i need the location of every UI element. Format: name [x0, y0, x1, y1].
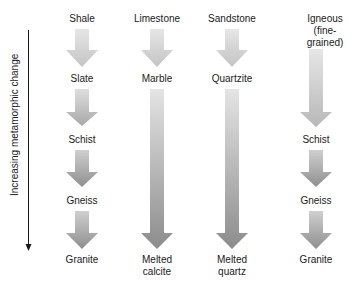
igneous-granite-label: Granite — [300, 254, 333, 265]
quartzite-label: Quartzite — [212, 73, 253, 84]
shale-label: Shale — [69, 13, 95, 24]
sandstone-arrow-1 — [216, 29, 248, 67]
shale-arrow-1 — [66, 29, 98, 67]
metamorphic-axis-arrow — [26, 30, 32, 251]
sandstone-label: Sandstone — [208, 13, 256, 24]
igneous-arrow-2 — [300, 150, 332, 187]
limestone-arrow-1 — [141, 29, 173, 67]
igneous-label-line2: (fine- — [314, 25, 337, 36]
diagram-arrows — [0, 0, 351, 281]
schist-label: Schist — [68, 134, 95, 145]
igneous-label-line3: grained) — [307, 37, 344, 48]
igneous-arrow-1 — [300, 49, 332, 127]
melted-calcite-line2: calcite — [143, 266, 171, 277]
axis-label: Increasing metamorphic change — [9, 54, 20, 196]
igneous-label-line1: Igneous — [307, 13, 343, 24]
limestone-arrow-2 — [141, 89, 173, 249]
sandstone-arrow-2 — [216, 89, 248, 249]
shale-arrow-2 — [66, 89, 98, 126]
igneous-arrow-3 — [300, 211, 332, 249]
melted-calcite-line1: Melted — [142, 254, 172, 265]
igneous-schist-label: Schist — [302, 134, 329, 145]
igneous-gneiss-label: Gneiss — [300, 195, 331, 206]
shale-arrow-4 — [66, 211, 98, 249]
melted-quartz-line2: quartz — [218, 266, 246, 277]
melted-quartz-line1: Melted — [217, 254, 247, 265]
shale-arrow-3 — [66, 150, 98, 187]
slate-label: Slate — [71, 73, 94, 84]
gneiss-label: Gneiss — [66, 195, 97, 206]
marble-label: Marble — [142, 73, 173, 84]
limestone-label: Limestone — [134, 13, 180, 24]
granite-label: Granite — [66, 254, 99, 265]
